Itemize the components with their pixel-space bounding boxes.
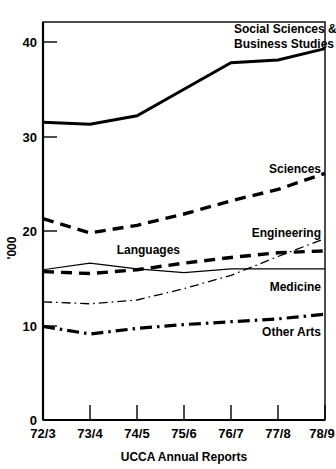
- x-axis-title: UCCA Annual Reports: [121, 450, 248, 464]
- y-tick-marks: [43, 42, 57, 420]
- line-chart-svg: 40 30 20 10 0 '000 72/3 73/4 74/5 75/6 7…: [0, 0, 336, 469]
- x-tick-label-4: 76/7: [218, 426, 243, 441]
- series-label-medicine: Medicine: [270, 280, 322, 294]
- x-tick-label-0: 72/3: [30, 426, 55, 441]
- series-label-other-arts: Other Arts: [262, 325, 321, 339]
- y-tick-label-10: 10: [23, 319, 37, 334]
- y-axis-title: '000: [5, 236, 19, 259]
- x-tick-label-3: 75/6: [171, 426, 196, 441]
- y-tick-label-20: 20: [23, 224, 37, 239]
- chart-figure: 40 30 20 10 0 '000 72/3 73/4 74/5 75/6 7…: [0, 0, 336, 469]
- series-line-social-sciences-business-studies: [43, 49, 325, 125]
- series-line-medicine: [43, 263, 325, 272]
- x-tick-label-1: 73/4: [77, 426, 103, 441]
- x-tick-marks: [43, 405, 325, 420]
- series-label-social-sciences-line2: Business Studies: [234, 37, 334, 51]
- x-tick-label-5: 77/8: [265, 426, 290, 441]
- series-label-sciences: Sciences: [269, 162, 321, 176]
- series-label-languages: Languages: [117, 243, 181, 257]
- y-tick-label-40: 40: [23, 35, 37, 50]
- series-line-sciences: [43, 173, 325, 233]
- series-label-engineering: Engineering: [252, 226, 321, 240]
- x-tick-label-2: 74/5: [124, 426, 149, 441]
- x-tick-label-6: 78/9: [309, 426, 334, 441]
- y-tick-label-30: 30: [23, 130, 37, 145]
- series-label-social-sciences-line1: Social Sciences &: [234, 22, 336, 36]
- plot-frame: [43, 22, 325, 420]
